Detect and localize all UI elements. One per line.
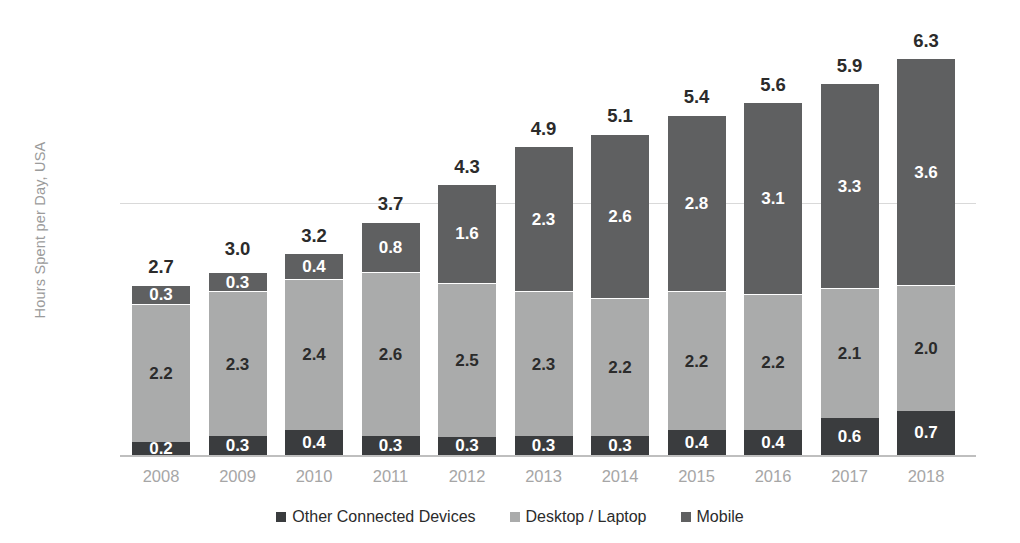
bar-stack[interactable]: 0.32.22.6 xyxy=(591,134,649,455)
bar-segment[interactable]: 2.1 xyxy=(821,288,879,418)
bar-group[interactable]: 0.32.32.34.92013 xyxy=(515,9,573,455)
legend-swatch-icon xyxy=(276,512,286,522)
x-axis-tick-label: 2009 xyxy=(209,468,267,485)
bar-segment[interactable]: 2.3 xyxy=(209,291,267,436)
bar-group[interactable]: 0.42.40.43.22010 xyxy=(285,9,343,455)
bar-segment[interactable]: 0.3 xyxy=(132,285,190,304)
bar-segment[interactable]: 0.6 xyxy=(821,418,879,455)
bar-total-label: 4.9 xyxy=(515,120,573,139)
bar-segment[interactable]: 2.6 xyxy=(362,272,420,436)
bar-stack[interactable]: 0.32.51.6 xyxy=(438,184,496,455)
bar-stack[interactable]: 0.32.32.3 xyxy=(515,146,573,455)
bar-segment-value-label: 0.4 xyxy=(302,434,326,451)
legend-label: Mobile xyxy=(697,508,744,526)
bar-total-label: 4.3 xyxy=(438,158,496,177)
x-axis-tick-label: 2017 xyxy=(821,468,879,485)
bar-segment[interactable]: 0.8 xyxy=(362,222,420,272)
x-axis-tick-label: 2010 xyxy=(285,468,343,485)
stacked-bar-chart: Hours Spent per Day, USA 04 0.22.20.32.7… xyxy=(0,0,1020,543)
bar-segment[interactable]: 0.4 xyxy=(668,430,726,455)
bar-segment[interactable]: 0.7 xyxy=(897,411,955,455)
bar-group[interactable]: 0.32.60.83.72011 xyxy=(362,9,420,455)
legend-label: Other Connected Devices xyxy=(292,508,475,526)
x-axis-tick-label: 2013 xyxy=(515,468,573,485)
bar-segment[interactable]: 0.3 xyxy=(438,437,496,455)
bar-segment[interactable]: 2.3 xyxy=(515,291,573,436)
chart-legend: Other Connected Devices Desktop / Laptop… xyxy=(0,508,1020,526)
bar-segment-value-label: 2.0 xyxy=(914,340,938,357)
bar-segment-value-label: 0.4 xyxy=(685,434,709,451)
bar-segment-value-label: 2.2 xyxy=(685,353,709,370)
bar-total-label: 3.7 xyxy=(362,195,420,214)
bar-segment-value-label: 0.3 xyxy=(379,437,403,454)
bar-segment-value-label: 3.6 xyxy=(914,164,938,181)
bar-stack[interactable]: 0.42.40.4 xyxy=(285,253,343,455)
bar-segment[interactable]: 1.6 xyxy=(438,184,496,283)
bar-segment[interactable]: 2.8 xyxy=(668,115,726,291)
bar-segment-value-label: 0.8 xyxy=(379,239,403,256)
legend-item-mobile[interactable]: Mobile xyxy=(681,508,744,526)
bar-stack[interactable]: 0.42.22.8 xyxy=(668,115,726,455)
bar-segment[interactable]: 3.6 xyxy=(897,58,955,285)
bar-stack[interactable]: 0.42.23.1 xyxy=(744,102,802,455)
bar-segment[interactable]: 0.3 xyxy=(362,436,420,455)
bar-segment[interactable]: 2.2 xyxy=(668,291,726,430)
bar-segment[interactable]: 2.3 xyxy=(515,146,573,291)
bar-segment[interactable]: 2.6 xyxy=(591,134,649,298)
bar-segment[interactable]: 0.4 xyxy=(744,430,802,455)
bars-layer: 0.22.20.32.720080.32.30.33.020090.42.40.… xyxy=(120,10,976,456)
bar-segment[interactable]: 0.3 xyxy=(209,272,267,291)
bar-segment-value-label: 2.2 xyxy=(761,354,785,371)
bar-segment-value-label: 2.3 xyxy=(532,356,556,373)
legend-item-other-connected-devices[interactable]: Other Connected Devices xyxy=(276,508,475,526)
bar-segment-value-label: 0.7 xyxy=(914,424,938,441)
bar-segment[interactable]: 0.3 xyxy=(209,436,267,455)
bar-group[interactable]: 0.32.22.65.12014 xyxy=(591,9,649,455)
bar-segment-value-label: 2.5 xyxy=(455,352,479,369)
bar-segment[interactable]: 0.3 xyxy=(591,436,649,455)
bar-group[interactable]: 0.42.22.85.42015 xyxy=(668,9,726,455)
bar-group[interactable]: 0.62.13.35.92017 xyxy=(821,9,879,455)
bar-segment-value-label: 3.3 xyxy=(838,178,862,195)
bar-segment[interactable]: 0.4 xyxy=(285,253,343,278)
bar-segment[interactable]: 2.0 xyxy=(897,285,955,411)
bar-segment-value-label: 2.6 xyxy=(608,208,632,225)
bar-segment-value-label: 0.3 xyxy=(608,437,632,454)
legend-swatch-icon xyxy=(681,512,691,522)
bar-group[interactable]: 0.42.23.15.62016 xyxy=(744,9,802,455)
bar-segment-value-label: 2.3 xyxy=(532,211,556,228)
bar-segment-value-label: 0.2 xyxy=(149,442,173,455)
bar-segment[interactable]: 2.2 xyxy=(132,304,190,443)
bar-segment[interactable]: 2.2 xyxy=(744,294,802,430)
bar-segment-value-label: 2.6 xyxy=(379,346,403,363)
bar-group[interactable]: 0.32.51.64.32012 xyxy=(438,9,496,455)
legend-item-desktop-laptop[interactable]: Desktop / Laptop xyxy=(510,508,647,526)
bar-segment[interactable]: 3.3 xyxy=(821,83,879,287)
bar-segment[interactable]: 3.1 xyxy=(744,102,802,294)
bar-stack[interactable]: 0.32.30.3 xyxy=(209,266,267,455)
bar-total-label: 5.1 xyxy=(591,107,649,126)
bar-segment-value-label: 0.3 xyxy=(226,274,250,291)
bar-segment-value-label: 2.1 xyxy=(838,345,862,362)
bar-segment[interactable]: 2.5 xyxy=(438,283,496,437)
bar-group[interactable]: 0.22.20.32.72008 xyxy=(132,9,190,455)
plot-area: 04 0.22.20.32.720080.32.30.33.020090.42.… xyxy=(120,10,976,456)
bar-stack[interactable]: 0.62.13.3 xyxy=(821,83,879,455)
bar-segment[interactable]: 2.4 xyxy=(285,279,343,430)
y-axis-title: Hours Spent per Day, USA xyxy=(32,120,48,340)
bar-total-label: 5.9 xyxy=(821,57,879,76)
bar-segment[interactable]: 2.2 xyxy=(591,298,649,437)
x-axis-tick-label: 2014 xyxy=(591,468,649,485)
bar-group[interactable]: 0.72.03.66.32018 xyxy=(897,9,955,455)
x-axis-tick-label: 2008 xyxy=(132,468,190,485)
bar-segment[interactable]: 0.3 xyxy=(515,436,573,455)
bar-segment[interactable]: 0.4 xyxy=(285,430,343,455)
bar-segment[interactable]: 0.2 xyxy=(132,442,190,455)
x-axis-tick-label: 2016 xyxy=(744,468,802,485)
bar-segment-value-label: 0.3 xyxy=(149,286,173,303)
bar-segment-value-label: 0.4 xyxy=(761,434,785,451)
bar-group[interactable]: 0.32.30.33.02009 xyxy=(209,9,267,455)
bar-stack[interactable]: 0.22.20.3 xyxy=(132,285,190,455)
bar-stack[interactable]: 0.32.60.8 xyxy=(362,222,420,455)
bar-stack[interactable]: 0.72.03.6 xyxy=(897,58,955,455)
